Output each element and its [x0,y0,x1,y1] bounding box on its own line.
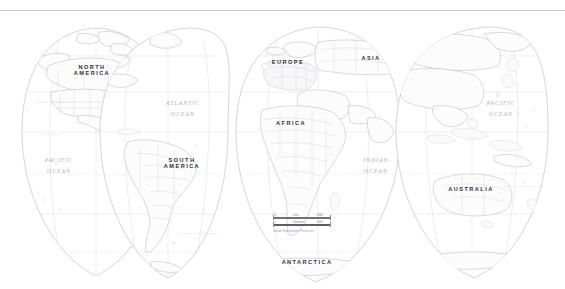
scale-bar-km-zero: 0 [275,221,276,224]
scale-bar-miles-max: 2000 [317,214,323,217]
projection-note: Goode Homolosine Projection [273,230,335,233]
top-divider-rule [0,10,565,11]
goode-homolosine-map-graphic: .g { stroke:#d4d6db; stroke-width:.45; f… [0,14,565,289]
scale-bar-miles-zero: 0 [275,214,276,217]
scale-bar-tick-right [330,222,331,228]
scale-bar-km-track [273,224,331,226]
scale-bar-miles-row: 0 miles 2000 [273,214,335,220]
scale-bar-miles-unit: miles [293,214,299,217]
scale-bar-km-unit: kilometers [293,221,305,224]
scale-bar-tick-right [330,215,331,221]
scale-bar-miles-track [273,217,331,219]
world-map-canvas: .g { stroke:#d4d6db; stroke-width:.45; f… [0,0,565,289]
scale-bar-km-max: 3000 [317,221,323,224]
scale-bar-kilometers-row: 0 kilometers 3000 [273,221,335,227]
scale-bar: 0 miles 2000 0 kilometers 3000 Goode Hom… [273,214,335,233]
